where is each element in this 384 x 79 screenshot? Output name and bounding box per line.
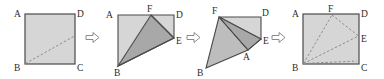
label-a-panel4: A <box>292 9 299 19</box>
square-abcd-unfolded <box>303 14 359 64</box>
folding-sequence-figure: A D B C A F D E B <box>0 0 384 79</box>
label-d-panel3: D <box>262 8 269 18</box>
label-d-panel2: D <box>176 10 183 20</box>
label-b-panel4: B <box>292 63 298 73</box>
label-c-panel4: C <box>361 63 367 73</box>
right-arrow-icon <box>272 33 285 43</box>
panel-2-first-fold: A F D E B <box>106 4 183 78</box>
panel-4-unfolded-square: A F D E B C <box>292 4 368 73</box>
label-b-panel2: B <box>114 68 120 78</box>
label-e-panel2: E <box>176 36 182 46</box>
label-f-panel2: F <box>147 4 152 14</box>
label-e-panel3: E <box>263 36 269 46</box>
label-f-panel4: F <box>328 4 333 14</box>
right-arrow-icon <box>86 33 99 43</box>
step-arrow-3 <box>272 33 285 43</box>
label-c-panel1: C <box>77 63 83 73</box>
folding-sequence-svg: A D B C A F D E B <box>0 0 384 79</box>
step-arrow-2 <box>187 33 200 43</box>
label-f-panel3: F <box>212 6 217 16</box>
label-a-panel3: A <box>243 52 250 62</box>
label-d-panel1: D <box>77 9 84 19</box>
label-d-panel4: D <box>361 9 368 19</box>
label-a-panel1: A <box>14 9 21 19</box>
label-b-panel1: B <box>14 63 20 73</box>
label-e-panel4: E <box>361 34 367 44</box>
step-arrow-1 <box>86 33 99 43</box>
label-b-panel3: B <box>197 68 203 78</box>
panel-1-original-square: A D B C <box>14 9 84 73</box>
panel-3-second-fold: F D E A B <box>197 6 269 78</box>
right-arrow-icon <box>187 33 200 43</box>
square-abcd <box>25 14 75 64</box>
label-a-panel2: A <box>106 10 113 20</box>
